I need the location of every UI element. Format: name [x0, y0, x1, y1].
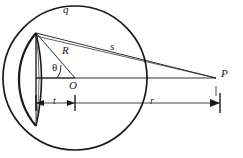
label-theta: θ	[52, 62, 57, 73]
label-q: q	[63, 4, 69, 15]
slant-line-secondary	[36, 36, 216, 78]
dimension-arrow-t-right	[67, 100, 75, 106]
figure-canvas	[0, 0, 243, 158]
label-r: r	[150, 96, 154, 106]
label-s: s	[110, 41, 114, 52]
geometry-figure: q R s θ O P t r	[0, 0, 243, 158]
angle-arc-theta	[57, 65, 61, 78]
label-R: R	[62, 45, 69, 56]
dimension-arrow-r-right	[210, 99, 220, 107]
label-t: t	[53, 96, 56, 106]
label-O: O	[69, 80, 77, 91]
label-P: P	[221, 68, 228, 79]
cap-outer-arc	[19, 33, 36, 126]
